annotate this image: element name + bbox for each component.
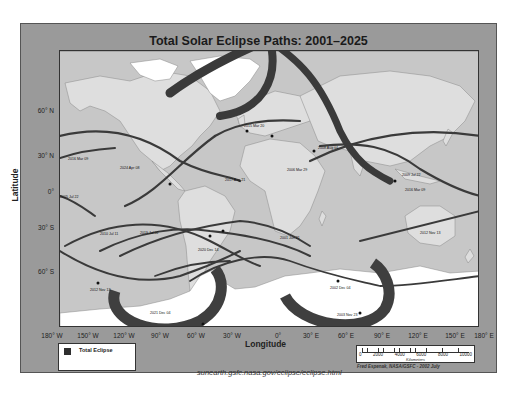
map-title: Total Solar Eclipse Paths: 2001–2025 xyxy=(21,34,496,48)
lon-tick-30w: 30° W xyxy=(217,332,247,339)
credit-text: Fred Espenak, NASA/GSFC - 2002 July xyxy=(357,364,440,369)
lon-tick-60e: 60° E xyxy=(331,332,361,339)
svg-text:2008 Aug 01: 2008 Aug 01 xyxy=(318,146,338,150)
svg-text:2016 Mar 09: 2016 Mar 09 xyxy=(405,188,425,192)
legend-label: Total Eclipse xyxy=(79,347,113,353)
scale-unit: Kilometers xyxy=(357,357,474,362)
world-map: 2015 Mar 20 2008 Aug 01 2017 Aug 21 2016… xyxy=(59,50,479,327)
svg-text:2016 Mar 09: 2016 Mar 09 xyxy=(68,157,88,161)
svg-text:2003 Nov 23: 2003 Nov 23 xyxy=(337,313,357,317)
map-graphics: 2015 Mar 20 2008 Aug 01 2017 Aug 21 2016… xyxy=(60,51,479,327)
lon-tick-90e: 90° E xyxy=(367,332,397,339)
svg-text:2002 Dec 04: 2002 Dec 04 xyxy=(330,286,350,290)
svg-text:2009 Jul 22: 2009 Jul 22 xyxy=(402,173,421,177)
lon-tick-150e: 150° E xyxy=(440,332,470,339)
lat-tick-60s: 60° S xyxy=(18,268,54,275)
svg-text:2015 Mar 20: 2015 Mar 20 xyxy=(244,124,264,128)
svg-text:2012 Nov 13: 2012 Nov 13 xyxy=(90,288,110,292)
latitude-axis-title: Latitude xyxy=(10,168,20,201)
svg-text:2021 Dec 04: 2021 Dec 04 xyxy=(150,311,170,315)
scale-bar: 0 2000 4000 6000 8000 10000 Kilometers xyxy=(356,345,475,363)
legend: Total Eclipse xyxy=(58,343,136,371)
source-url[interactable]: sunearth.gsfc.nasa.gov/eclipse/eclipse.h… xyxy=(197,368,342,377)
lon-tick-0: 0° xyxy=(263,332,293,339)
svg-text:2005 Jul 22: 2005 Jul 22 xyxy=(60,195,79,199)
svg-text:2006 Mar 29: 2006 Mar 29 xyxy=(287,168,307,172)
svg-text:2010 Jul 11: 2010 Jul 11 xyxy=(100,232,118,236)
svg-text:2024 Apr 08: 2024 Apr 08 xyxy=(120,166,139,170)
lon-tick-90w: 90° W xyxy=(145,332,175,339)
lon-tick-180w: 180° W xyxy=(37,332,67,339)
lon-tick-180e: 180° E xyxy=(469,332,499,339)
svg-text:2020 Dec 14: 2020 Dec 14 xyxy=(198,248,218,252)
lat-tick-60n: 60° N xyxy=(18,107,54,114)
longitude-axis-title: Longitude xyxy=(245,339,286,349)
lon-tick-120e: 120° E xyxy=(403,332,433,339)
legend-swatch xyxy=(64,348,71,355)
svg-text:2012 Nov 13: 2012 Nov 13 xyxy=(420,231,440,235)
lon-tick-30e: 30° E xyxy=(296,332,326,339)
svg-text:2001 Jun 21: 2001 Jun 21 xyxy=(280,236,300,240)
lat-tick-0: 0° xyxy=(18,188,54,195)
lon-tick-150w: 150° W xyxy=(73,332,103,339)
svg-text:2019 Jul 02: 2019 Jul 02 xyxy=(140,231,159,235)
lat-tick-30n: 30° N xyxy=(18,152,54,159)
lon-tick-120w: 120° W xyxy=(109,332,139,339)
svg-text:2017 Aug 21: 2017 Aug 21 xyxy=(225,178,245,182)
lat-tick-30s: 30° S xyxy=(18,224,54,231)
lon-tick-60w: 60° W xyxy=(181,332,211,339)
